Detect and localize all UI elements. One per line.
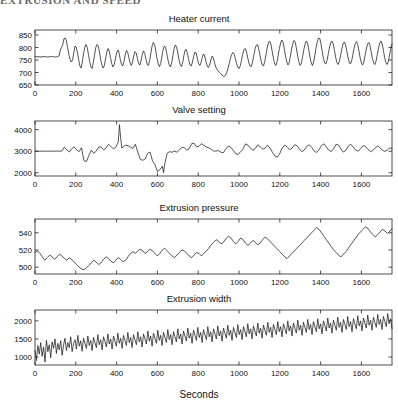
svg-text:200: 200	[69, 180, 83, 189]
svg-text:800: 800	[192, 180, 206, 189]
svg-text:2000: 2000	[14, 169, 32, 178]
svg-text:1600: 1600	[353, 89, 371, 98]
svg-text:1000: 1000	[230, 180, 248, 189]
svg-text:0: 0	[33, 89, 38, 98]
svg-text:1400: 1400	[312, 89, 330, 98]
panel-title-heater-current: Heater current	[0, 13, 398, 25]
svg-text:200: 200	[69, 89, 83, 98]
svg-text:3000: 3000	[14, 147, 32, 156]
plot-svg-heater-current: 0200400600800100012001400160065070075080…	[0, 25, 398, 101]
figure-page: EXTRUSION AND SPEED Heater current 02004…	[0, 0, 398, 412]
svg-text:1200: 1200	[271, 278, 289, 287]
svg-text:520: 520	[19, 246, 33, 255]
svg-text:1000: 1000	[230, 89, 248, 98]
svg-text:1400: 1400	[312, 278, 330, 287]
svg-text:1500: 1500	[14, 335, 32, 344]
svg-text:600: 600	[151, 180, 165, 189]
svg-text:1200: 1200	[271, 369, 289, 378]
panel-extrusion-width: Extrusion width 020040060080010001200140…	[0, 293, 398, 381]
svg-text:1000: 1000	[230, 278, 248, 287]
plot-extrusion-width: 0200400600800100012001400160010001500200…	[0, 305, 398, 381]
svg-text:200: 200	[69, 278, 83, 287]
svg-text:800: 800	[192, 369, 206, 378]
svg-text:1600: 1600	[353, 180, 371, 189]
panel-title-valve-setting: Valve setting	[0, 104, 398, 116]
running-header: EXTRUSION AND SPEED	[0, 0, 398, 6]
svg-text:0: 0	[33, 369, 38, 378]
svg-text:400: 400	[110, 278, 124, 287]
svg-text:1200: 1200	[271, 180, 289, 189]
svg-text:1200: 1200	[271, 89, 289, 98]
svg-text:800: 800	[192, 89, 206, 98]
plot-valve-setting: 0200400600800100012001400160020003000400…	[0, 116, 398, 192]
svg-text:0: 0	[33, 278, 38, 287]
running-header-text: EXTRUSION AND SPEED	[0, 0, 398, 6]
svg-text:750: 750	[19, 56, 33, 65]
svg-text:400: 400	[110, 369, 124, 378]
svg-text:1000: 1000	[230, 369, 248, 378]
plot-heater-current: 0200400600800100012001400160065070075080…	[0, 25, 398, 101]
svg-text:1600: 1600	[353, 278, 371, 287]
svg-text:850: 850	[19, 31, 33, 40]
svg-text:1600: 1600	[353, 369, 371, 378]
panel-valve-setting: Valve setting 02004006008001000120014001…	[0, 104, 398, 192]
plot-svg-extrusion-width: 0200400600800100012001400160010001500200…	[0, 305, 398, 381]
plot-extrusion-pressure: 02004006008001000120014001600500520540	[0, 214, 398, 290]
svg-text:1000: 1000	[14, 353, 32, 362]
svg-text:800: 800	[19, 44, 33, 53]
svg-text:650: 650	[19, 81, 33, 90]
panel-title-extrusion-pressure: Extrusion pressure	[0, 202, 398, 214]
svg-text:400: 400	[110, 180, 124, 189]
panel-extrusion-pressure: Extrusion pressure 020040060080010001200…	[0, 202, 398, 290]
svg-text:700: 700	[19, 69, 33, 78]
svg-text:600: 600	[151, 89, 165, 98]
svg-text:800: 800	[192, 278, 206, 287]
panel-title-extrusion-width: Extrusion width	[0, 293, 398, 305]
svg-text:4000: 4000	[14, 126, 32, 135]
svg-text:1400: 1400	[312, 369, 330, 378]
svg-text:2000: 2000	[14, 317, 32, 326]
svg-text:1400: 1400	[312, 180, 330, 189]
panel-heater-current: Heater current 0200400600800100012001400…	[0, 13, 398, 101]
svg-text:0: 0	[33, 180, 38, 189]
svg-text:400: 400	[110, 89, 124, 98]
plot-svg-valve-setting: 0200400600800100012001400160020003000400…	[0, 116, 398, 192]
x-axis-label: Seconds	[0, 389, 398, 400]
svg-text:600: 600	[151, 369, 165, 378]
svg-text:600: 600	[151, 278, 165, 287]
svg-text:540: 540	[19, 229, 33, 238]
svg-text:200: 200	[69, 369, 83, 378]
plot-svg-extrusion-pressure: 02004006008001000120014001600500520540	[0, 214, 398, 290]
svg-text:500: 500	[19, 263, 33, 272]
